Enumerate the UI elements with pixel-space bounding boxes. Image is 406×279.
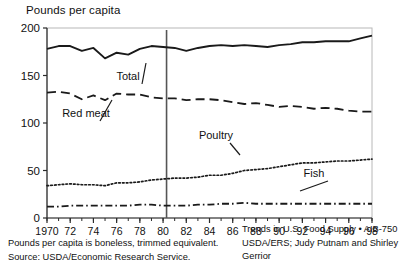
annotation-labels: TotalRed meatPoultryFish <box>62 70 324 179</box>
x-tick-label: 82 <box>180 225 192 237</box>
x-tick-label: 86 <box>227 225 239 237</box>
footnote-right: Trends in U.S. Food Supply • AIB-750 USD… <box>242 223 398 264</box>
footnote-left-line-2: Source: USDA/Economic Research Service. <box>8 251 218 265</box>
series-label-total: Total <box>116 70 139 82</box>
series-label-fish: Fish <box>304 167 325 179</box>
y-tick-label: 50 <box>27 165 40 177</box>
y-tick-label: 150 <box>21 70 40 82</box>
x-tick-label: 74 <box>88 225 100 237</box>
plot-frame <box>47 28 372 218</box>
series-label-poultry: Poultry <box>199 129 234 141</box>
y-tick-label: 100 <box>21 117 40 129</box>
chart-figure: Pounds per capita 050100150200 197072747… <box>0 0 406 279</box>
series-line-fish <box>47 203 372 207</box>
x-tick-label: 1970 <box>35 225 59 237</box>
y-tick-label: 0 <box>34 212 40 224</box>
y-axis-ticks: 050100150200 <box>21 22 47 224</box>
series-label-red-meat: Red meat <box>62 107 110 119</box>
x-tick-label: 76 <box>111 225 123 237</box>
x-tick-label: 80 <box>157 225 169 237</box>
footnote-left-line-1: Pounds per capita is boneless, trimmed e… <box>8 237 218 251</box>
data-series-group <box>47 36 372 207</box>
x-tick-label: 72 <box>64 225 76 237</box>
y-tick-label: 200 <box>21 22 40 34</box>
footnote-right-line-1: Trends in U.S. Food Supply • AIB-750 <box>242 223 398 237</box>
footnote-right-line-2: USDA/ERS; Judy Putnam and Shirley <box>242 237 398 251</box>
series-line-total <box>47 36 372 59</box>
footnote-left: Pounds per capita is boneless, trimmed e… <box>8 237 218 264</box>
footnote-right-line-3: Gerrior <box>242 250 398 264</box>
x-tick-label: 78 <box>134 225 146 237</box>
annotation-leader-lines <box>100 63 328 191</box>
x-tick-label: 84 <box>204 225 216 237</box>
